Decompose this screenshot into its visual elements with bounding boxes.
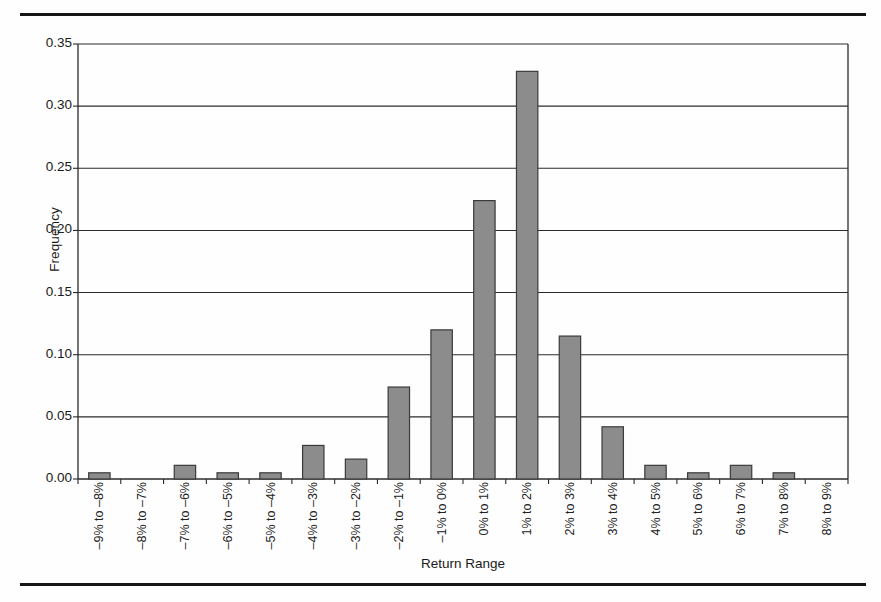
bar bbox=[516, 71, 537, 479]
plot-frame bbox=[78, 44, 848, 479]
bar bbox=[388, 387, 409, 479]
bar bbox=[303, 445, 324, 479]
x-axis-label: Return Range bbox=[78, 556, 848, 571]
bar bbox=[89, 473, 110, 479]
bar bbox=[174, 465, 195, 479]
bar bbox=[345, 459, 366, 479]
bar bbox=[260, 473, 281, 479]
bar bbox=[730, 465, 751, 479]
bar bbox=[559, 336, 580, 479]
bar bbox=[645, 465, 666, 479]
bar bbox=[602, 427, 623, 479]
gridlines bbox=[78, 44, 848, 479]
axis-ticks bbox=[73, 44, 848, 484]
bar-series bbox=[89, 71, 795, 479]
bar bbox=[773, 473, 794, 479]
histogram-figure: Frequency 0.000.050.100.150.200.250.300.… bbox=[0, 0, 881, 602]
bar bbox=[217, 473, 238, 479]
bar bbox=[688, 473, 709, 479]
bar bbox=[431, 330, 452, 479]
bar bbox=[474, 201, 495, 479]
